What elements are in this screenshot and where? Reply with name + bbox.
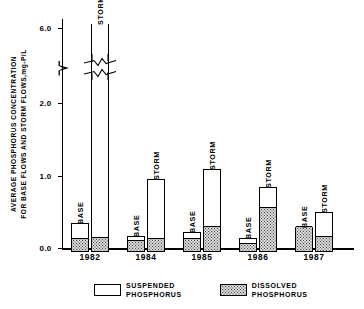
y-tick-1.0: 1.0 xyxy=(58,176,64,177)
bar-label-1984-base: BASE xyxy=(132,215,141,237)
x-axis-label-1987: 1987 xyxy=(303,252,324,262)
plot-area: 0.01.02.06.0 BASESTORMBASESTORMBASESTORM… xyxy=(62,12,356,252)
legend-item-suspended-phosphorus: SUSPENDED PHOSPHORUS xyxy=(94,281,182,299)
bar-label-1985-storm: STORM xyxy=(208,141,217,170)
y-tick-label-0.0: 0.0 xyxy=(39,244,51,253)
bar-label-1982-storm: STORM xyxy=(96,0,105,25)
y-axis-break-icon xyxy=(57,60,69,76)
x-axis-label-1985: 1985 xyxy=(191,252,212,262)
bar-1982-base xyxy=(71,223,89,252)
bar-1985-base xyxy=(183,232,201,252)
bar-segment-dissolved xyxy=(148,238,164,251)
bar-1986-storm xyxy=(259,187,277,252)
y-tick-2.0: 2.0 xyxy=(58,103,64,104)
y-axis-line xyxy=(62,19,63,248)
legend-label-dissolved-line-2: PHOSPHORUS xyxy=(252,290,308,299)
phosphorus-concentration-bar-chart: AVERAGE PHOSPHORUS CONCENTRATION FOR BAS… xyxy=(0,0,364,309)
legend-item-dissolved-phosphorus: DISSOLVED PHOSPHORUS xyxy=(220,281,308,299)
x-axis-label-1982: 1982 xyxy=(79,252,100,262)
legend-label-suspended-line-2: PHOSPHORUS xyxy=(126,290,182,299)
y-tick-label-2.0: 2.0 xyxy=(39,99,51,108)
legend-label-suspended-line-1: SUSPENDED xyxy=(126,281,182,290)
bar-1982-storm xyxy=(91,24,109,253)
chart-legend: SUSPENDED PHOSPHORUS DISSOLVED PHOSPHORU… xyxy=(94,281,308,299)
bar-segment-dissolved xyxy=(72,238,88,251)
bar-segment-dissolved xyxy=(240,243,256,251)
bar-1984-base xyxy=(127,236,145,252)
bar-label-1985-base: BASE xyxy=(188,211,197,233)
y-tick-6.0: 6.0 xyxy=(58,28,64,29)
bar-label-1987-storm: STORM xyxy=(320,184,329,213)
bar-segment-dissolved xyxy=(184,238,200,251)
bar-label-1982-base: BASE xyxy=(76,202,85,224)
bar-segment-dissolved xyxy=(92,237,108,251)
x-axis-label-1986: 1986 xyxy=(247,252,268,262)
bar-1984-storm xyxy=(147,179,165,252)
y-tick-label-6.0: 6.0 xyxy=(39,24,51,33)
bar-segment-dissolved xyxy=(128,240,144,251)
bar-label-1987-base: BASE xyxy=(300,205,309,227)
legend-label-dissolved-line-1: DISSOLVED xyxy=(252,281,308,290)
bar-1986-base xyxy=(239,238,257,252)
legend-swatch-dissolved xyxy=(220,284,247,296)
y-tick-0.0: 0.0 xyxy=(58,248,64,249)
bar-1987-storm xyxy=(315,212,333,252)
bar-label-1986-storm: STORM xyxy=(264,159,273,188)
y-axis-title-line-2: FOR BASE FLOWS AND STORM FLOWS,mg-P/L xyxy=(18,49,28,218)
y-axis-title-line-1: AVERAGE PHOSPHORUS CONCENTRATION xyxy=(9,49,19,218)
bar-segment-dissolved xyxy=(296,226,312,251)
bar-segment-dissolved xyxy=(260,207,276,252)
bar-segment-dissolved xyxy=(316,236,332,252)
bar-1987-base xyxy=(295,227,313,252)
bar-label-1986-base: BASE xyxy=(244,217,253,239)
bar-label-1984-storm: STORM xyxy=(152,151,161,180)
legend-swatch-suspended xyxy=(94,284,121,296)
y-axis-title: AVERAGE PHOSPHORUS CONCENTRATION FOR BAS… xyxy=(6,18,30,250)
bar-segment-dissolved xyxy=(204,226,220,251)
y-tick-label-1.0: 1.0 xyxy=(39,171,51,180)
bar-1985-storm xyxy=(203,169,221,252)
x-axis-label-1984: 1984 xyxy=(135,252,156,262)
